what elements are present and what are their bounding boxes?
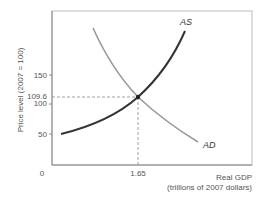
y-tick-100: 100	[34, 99, 48, 108]
x-tick-0: 0	[40, 169, 45, 178]
ad-curve	[93, 28, 198, 142]
as-curve	[61, 31, 185, 134]
equilibrium-point	[136, 95, 140, 99]
y-tick-50: 50	[38, 130, 47, 139]
x-tick-1-65: 1.65	[130, 169, 146, 178]
y-ticks: 150 109.6 100 50	[27, 71, 52, 139]
ad-label: AD	[202, 140, 216, 150]
as-label: AS	[179, 17, 192, 27]
y-axis-title: Price level (2007 = 100)	[16, 47, 25, 132]
x-ticks: 0 1.65	[40, 169, 147, 178]
x-axis-subtitle: (trillions of 2007 dollars)	[167, 183, 252, 192]
plot-frame	[52, 11, 252, 165]
ad-as-chart: 150 109.6 100 50 0 1.65 Price level (200…	[0, 0, 264, 197]
y-tick-150: 150	[34, 71, 48, 80]
x-axis-title: Real GDP	[216, 173, 252, 182]
